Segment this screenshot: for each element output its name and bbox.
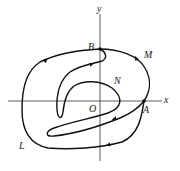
curve-n-label: N bbox=[114, 76, 121, 86]
y-axis-label: y bbox=[97, 4, 101, 14]
point-a bbox=[142, 99, 146, 103]
point-b-label: B bbox=[88, 42, 94, 52]
x-axis-label: x bbox=[164, 95, 168, 105]
curve-m-label: M bbox=[144, 50, 152, 60]
point-b bbox=[98, 47, 102, 51]
curve-l-label: L bbox=[19, 141, 25, 151]
diagram-canvas bbox=[0, 0, 180, 171]
origin-label: O bbox=[89, 104, 96, 114]
point-a-label: A bbox=[143, 105, 149, 115]
curve-m bbox=[100, 49, 149, 101]
curve-l bbox=[22, 49, 144, 149]
curve-n bbox=[47, 49, 144, 136]
